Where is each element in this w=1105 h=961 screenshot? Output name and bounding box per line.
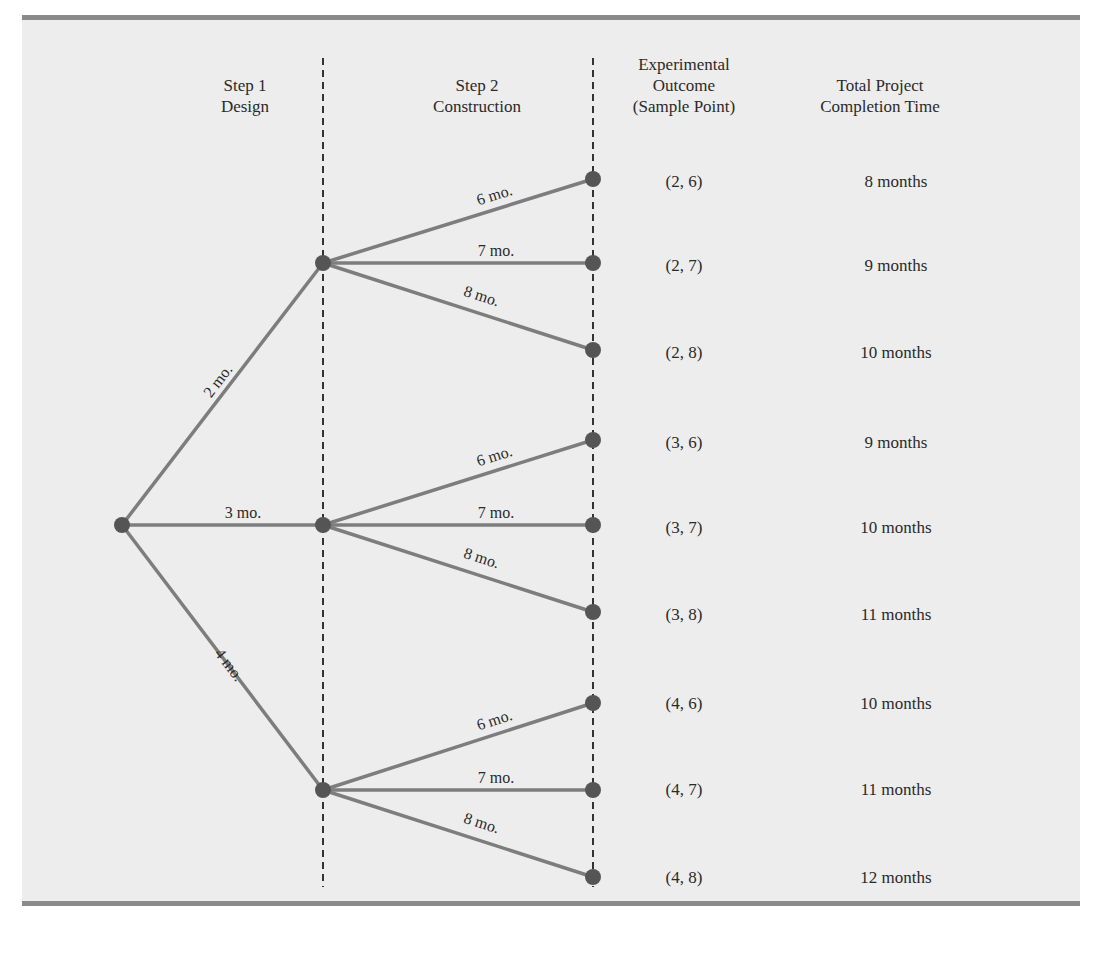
branch-2-8 bbox=[323, 263, 593, 350]
root-node bbox=[114, 517, 130, 533]
branch-design-2mo bbox=[122, 263, 323, 525]
completion-time: 12 months bbox=[860, 868, 931, 888]
outcome-node bbox=[585, 695, 601, 711]
design-node-3 bbox=[315, 517, 331, 533]
completion-time: 10 months bbox=[860, 518, 931, 538]
completion-time: 10 months bbox=[860, 343, 931, 363]
label-8mo: 8 mo. bbox=[462, 809, 502, 836]
outcome-node bbox=[585, 517, 601, 533]
completion-time: 10 months bbox=[860, 694, 931, 714]
outcome-node bbox=[585, 782, 601, 798]
label-7mo: 7 mo. bbox=[478, 769, 514, 786]
sample-point: (3, 8) bbox=[666, 605, 703, 625]
branch-2-6 bbox=[323, 179, 593, 263]
outcome-node bbox=[585, 171, 601, 187]
tree-diagram: 2 mo. 3 mo. 4 mo. 6 mo. 7 mo. 8 mo. 6 mo… bbox=[0, 0, 1105, 961]
branch-3-8 bbox=[323, 525, 593, 612]
label-2mo: 2 mo. bbox=[200, 361, 236, 400]
label-3mo: 3 mo. bbox=[225, 504, 261, 521]
label-8mo: 8 mo. bbox=[462, 282, 502, 309]
branch-4-8 bbox=[323, 790, 593, 877]
branch-3-6 bbox=[323, 440, 593, 525]
sample-point: (3, 7) bbox=[666, 518, 703, 538]
sample-point: (2, 6) bbox=[666, 172, 703, 192]
branch-4-6 bbox=[323, 703, 593, 790]
completion-time: 8 months bbox=[865, 172, 928, 192]
sample-point: (3, 6) bbox=[666, 433, 703, 453]
completion-time: 9 months bbox=[865, 433, 928, 453]
design-node-2 bbox=[315, 255, 331, 271]
completion-time: 11 months bbox=[861, 605, 932, 625]
sample-point: (4, 6) bbox=[666, 694, 703, 714]
sample-point: (2, 7) bbox=[666, 256, 703, 276]
outcome-node bbox=[585, 255, 601, 271]
outcome-node bbox=[585, 604, 601, 620]
label-8mo: 8 mo. bbox=[462, 544, 502, 571]
design-node-4 bbox=[315, 782, 331, 798]
outcome-node bbox=[585, 869, 601, 885]
outcome-node bbox=[585, 432, 601, 448]
completion-time: 11 months bbox=[861, 780, 932, 800]
label-7mo: 7 mo. bbox=[478, 504, 514, 521]
sample-point: (4, 7) bbox=[666, 780, 703, 800]
sample-point: (2, 8) bbox=[666, 343, 703, 363]
outcome-node bbox=[585, 342, 601, 358]
completion-time: 9 months bbox=[865, 256, 928, 276]
label-7mo: 7 mo. bbox=[478, 242, 514, 259]
label-4mo: 4 mo. bbox=[212, 645, 248, 684]
sample-point: (4, 8) bbox=[666, 868, 703, 888]
